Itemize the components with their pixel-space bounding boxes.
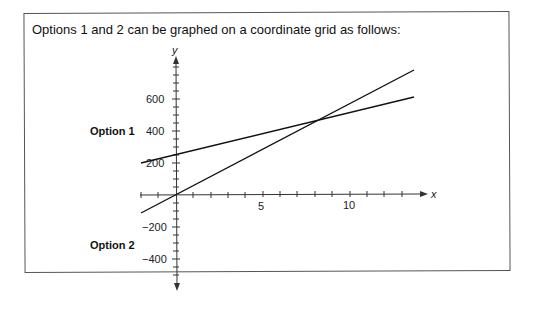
y-tick-200: 200	[146, 157, 164, 169]
y-tick-neg400: −400	[142, 253, 167, 265]
y-tick-400: 400	[146, 125, 164, 137]
x-tick-10: 10	[343, 199, 355, 211]
option1-label: Option 1	[90, 125, 135, 137]
option2-line	[141, 70, 414, 213]
y-tick-neg200: −200	[142, 221, 167, 233]
y-axis-up-arrow-icon	[173, 56, 179, 64]
x-axis-arrow-icon	[420, 191, 428, 197]
y-axis-label: y	[171, 44, 179, 56]
y-tick-600: 600	[146, 93, 164, 105]
x-tick-5: 5	[258, 200, 264, 212]
option2-label: Option 2	[90, 239, 135, 251]
coordinate-grid: x 5 10 y 600 400 200 −200 −400	[0, 0, 534, 314]
y-axis-down-arrow-icon	[174, 283, 180, 291]
x-axis-label: x	[430, 188, 437, 200]
option1-line	[141, 97, 414, 163]
y-axis	[172, 62, 180, 285]
